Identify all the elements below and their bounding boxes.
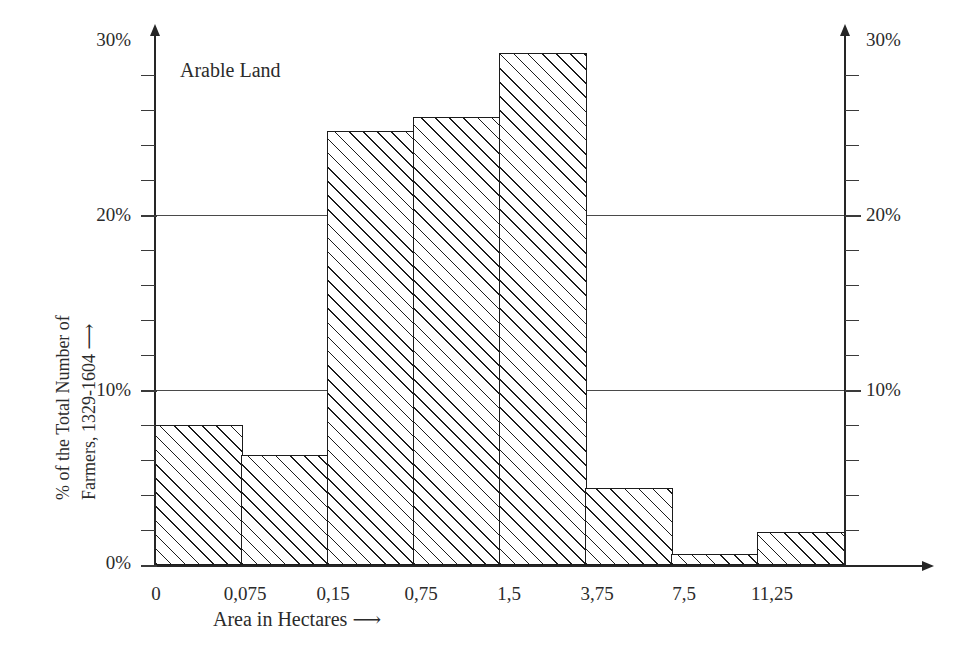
x-axis-title-text: Area in Hectares [213,608,347,630]
y-tick-left-26 [141,110,155,111]
y-tick-right-8 [845,425,859,426]
y-tick-right-20 [845,215,861,217]
y-tick-right-24 [845,145,859,146]
bar-3.75[interactable] [585,488,673,565]
y-tick-right-26 [845,110,859,111]
y-tick-right-12 [845,355,859,356]
bar-0.75[interactable] [413,117,501,565]
x-axis-label-0: 0 [151,583,161,605]
x-axis-label-1.5: 1,5 [497,583,521,605]
y-tick-left-8 [141,425,155,426]
bar-11.25[interactable] [757,532,845,565]
x-axis-title: Area in Hectares ⟶ [213,607,380,631]
y-axis-title: % of the Total Number of Farmers, 1329-1… [50,315,102,500]
y-tick-left-24 [141,145,155,146]
x-axis-label-0.075: 0,075 [224,583,267,605]
x-axis-arrow-icon [922,561,934,571]
y-axis-right-label-10: 10% [866,379,901,401]
x-axis-label-0.15: 0,15 [316,583,349,605]
y-axis-title-arrow-icon: ⟶ [79,325,99,350]
y-tick-right-14 [845,320,859,321]
bar-1.5[interactable] [499,53,587,565]
y-axis-right-label-30: 30% [866,29,901,51]
y-tick-left-20 [141,215,157,217]
x-axis-label-3.75: 3,75 [580,583,613,605]
y-axis-left-label-20: 20% [96,204,131,226]
y-tick-right-6 [845,460,859,461]
plot-area [155,40,845,565]
bar-0[interactable] [155,425,243,565]
y-axis-left-arrow-icon [150,24,160,36]
y-tick-right-28 [845,75,859,76]
y-axis-left-label-0: 0% [106,552,131,574]
x-axis-title-arrow-icon: ⟶ [352,608,380,630]
x-axis-label-7.5: 7,5 [672,583,696,605]
y-tick-left-0 [141,565,157,567]
y-tick-left-18 [141,250,155,251]
y-axis-left-line [154,34,156,567]
x-axis-line [154,565,930,567]
y-tick-left-4 [141,495,155,496]
y-axis-title-line-1: % of the Total Number of [50,315,76,500]
arable-land-annotation: Arable Land [180,59,281,82]
y-tick-left-2 [141,530,155,531]
y-axis-title-line-2: Farmers, 1329-1604 ⟶ [76,315,102,500]
bar-0.15[interactable] [327,131,415,565]
x-axis-label-0.75: 0,75 [404,583,437,605]
y-tick-right-10 [845,390,861,392]
y-tick-right-4 [845,495,859,496]
y-tick-right-16 [845,285,859,286]
y-axis-right-label-20: 20% [866,204,901,226]
y-tick-right-2 [845,530,859,531]
y-axis-left-label-30: 30% [96,29,131,51]
y-tick-left-28 [141,75,155,76]
y-tick-left-12 [141,355,155,356]
bar-7.5[interactable] [671,554,759,565]
y-tick-left-14 [141,320,155,321]
x-axis-label-11.25: 11,25 [751,583,793,605]
y-axis-right-line [844,34,846,567]
y-axis-right-arrow-icon [840,24,850,36]
y-axis-title-line-2-text: Farmers, 1329-1604 [79,354,99,500]
y-tick-right-22 [845,180,859,181]
histogram-chart: 30% 20% 10% 0% 30% 20% 10% 0 0,075 0,15 … [0,0,969,652]
y-tick-left-16 [141,285,155,286]
y-tick-left-10 [141,390,157,392]
y-tick-right-18 [845,250,859,251]
y-tick-left-6 [141,460,155,461]
y-tick-left-22 [141,180,155,181]
bar-0.075[interactable] [241,455,329,565]
